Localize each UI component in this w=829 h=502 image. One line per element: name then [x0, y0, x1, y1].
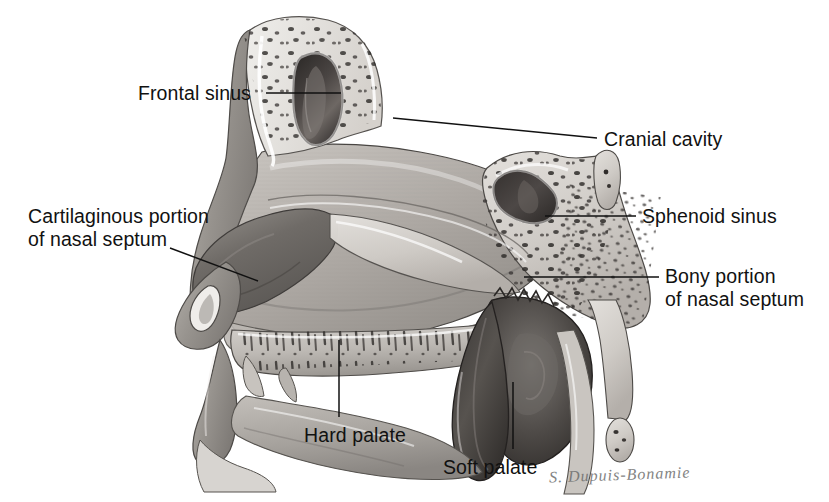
anatomy-illustration-svg: [0, 0, 829, 502]
label-frontal-sinus: Frontal sinus: [138, 82, 251, 105]
label-hard-palate: Hard palate: [304, 424, 406, 447]
frontal-sinus-cavity: [293, 53, 343, 145]
label-bony-portion-of-nasal-septum: Bony portion of nasal septum: [665, 265, 804, 311]
label-sphenoid-sinus: Sphenoid sinus: [642, 205, 777, 228]
label-cranial-cavity: Cranial cavity: [604, 128, 722, 151]
nasal-cavity-anatomical-figure: [0, 0, 829, 502]
label-cartilaginous-portion-of-nasal-septum: Cartilaginous portion of nasal septum: [28, 205, 209, 251]
label-soft-palate: Soft palate: [443, 456, 537, 479]
